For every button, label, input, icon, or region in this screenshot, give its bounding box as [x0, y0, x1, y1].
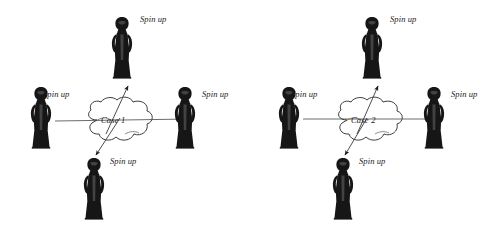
spin-up-label-left-case-2: Spin up [291, 90, 317, 99]
figure-canvas: Case 1 Spin up [0, 0, 491, 225]
figure-caption [0, 218, 491, 225]
panel-case-2: Case 2 Spin up [245, 0, 491, 225]
spin-up-label-top-case-1: Spin up [140, 15, 166, 24]
case-label-2: Case 2 [351, 116, 376, 125]
spin-up-label-bottom-case-2: Spin up [359, 157, 385, 166]
statue-top-case-1 [109, 16, 135, 79]
spin-up-label-right-case-1: Spin up [202, 90, 228, 99]
spin-up-label-left-case-1: Spin up [43, 90, 69, 99]
statue-right-case-2 [421, 86, 447, 149]
spin-up-label-bottom-case-1: Spin up [110, 157, 136, 166]
statue-bottom-case-2 [330, 157, 356, 220]
panel-case-1: Case 1 Spin up [0, 0, 246, 225]
spin-up-label-right-case-2: Spin up [451, 90, 477, 99]
statue-bottom-case-1 [81, 157, 107, 220]
statue-right-case-1 [172, 86, 198, 149]
case-label-1: Case 1 [101, 116, 126, 125]
statue-top-case-2 [359, 16, 385, 79]
spin-up-label-top-case-2: Spin up [390, 15, 416, 24]
